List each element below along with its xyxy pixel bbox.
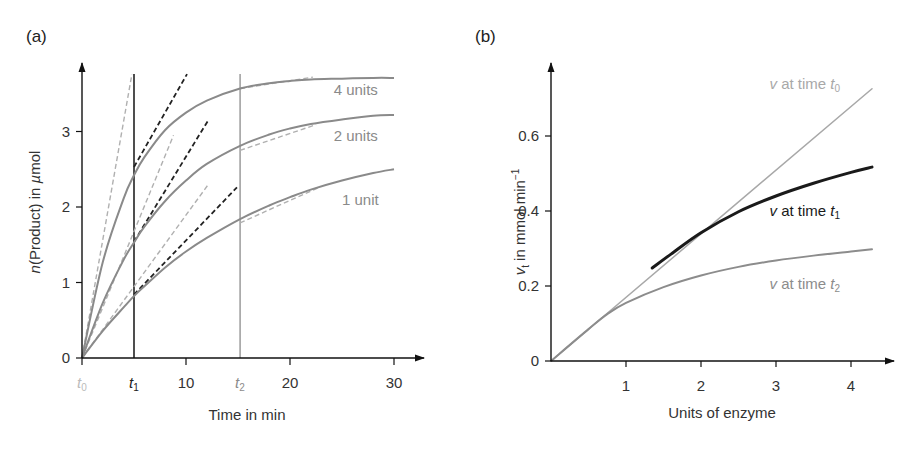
y-tick-label: 3 xyxy=(62,123,70,140)
tangent-line-t0 xyxy=(82,74,132,358)
series-label: 2 units xyxy=(334,127,378,144)
time-marker-label-t0: t0 xyxy=(77,374,87,393)
curve-v-at-t2 xyxy=(551,249,872,361)
panel-a-ticks: 0123102030t0t1t2 xyxy=(62,123,403,394)
time-marker-label-t1: t1 xyxy=(129,374,139,393)
tangent-line-t2 xyxy=(240,187,319,222)
series-label: 1 unit xyxy=(342,191,380,208)
x-tick-label: 2 xyxy=(697,377,705,394)
tangent-line-t1 xyxy=(134,121,208,242)
tangent-line-t0 xyxy=(82,135,174,358)
y-axis-title: vt in mmol min−1 xyxy=(510,168,531,275)
x-axis-title: Units of enzyme xyxy=(668,404,776,421)
x-tick-label: 1 xyxy=(622,377,630,394)
series-label-v-at-t0: v at time t0 xyxy=(770,75,841,94)
curve-4-units xyxy=(82,78,394,358)
panel-b-series-labels: v at time t0v at time t1v at time t2 xyxy=(770,75,841,295)
y-tick-label: 0.6 xyxy=(518,127,539,144)
y-tick-label: 2 xyxy=(62,198,70,215)
series-label: 4 units xyxy=(334,81,378,98)
time-marker-label-t2: t2 xyxy=(235,374,245,393)
tangent-line-t1 xyxy=(134,74,187,167)
x-tick-label: 3 xyxy=(772,377,780,394)
y-tick-label: 1 xyxy=(62,274,70,291)
x-tick-label: 4 xyxy=(847,377,855,394)
y-tick-label: 0.2 xyxy=(518,277,539,294)
panel-a-label: (a) xyxy=(26,27,47,46)
tangent-line-t1 xyxy=(134,187,237,294)
y-tick-label: 0 xyxy=(531,352,539,369)
x-tick-label: 30 xyxy=(386,374,403,391)
panel-b-ticks: 00.20.40.61234 xyxy=(518,127,855,394)
x-axis-title: Time in min xyxy=(209,406,286,423)
y-tick-label: 0 xyxy=(62,349,70,366)
panel-a-plot-area: 4 units2 units1 unit xyxy=(82,74,394,358)
panel-b-label: (b) xyxy=(475,27,496,46)
figure: (a) 4 units2 units1 unit 0123102030t0t1t… xyxy=(0,0,912,452)
tangent-line-t2 xyxy=(240,125,316,151)
series-label-v-at-t1: v at time t1 xyxy=(770,202,841,221)
panel-b-plot-area xyxy=(551,89,872,361)
panel-a-time-course-chart: (a) 4 units2 units1 unit 0123102030t0t1t… xyxy=(26,27,424,423)
x-tick-label: 20 xyxy=(282,374,299,391)
y-axis-title: n(Product) in µmol xyxy=(26,151,43,274)
curve-2-units xyxy=(82,115,394,358)
panel-b-velocity-chart: (b) 00.20.40.61234 vt in mmol min−1 Unit… xyxy=(475,27,894,421)
series-label-v-at-t2: v at time t2 xyxy=(770,275,841,294)
x-tick-label: 10 xyxy=(178,374,195,391)
